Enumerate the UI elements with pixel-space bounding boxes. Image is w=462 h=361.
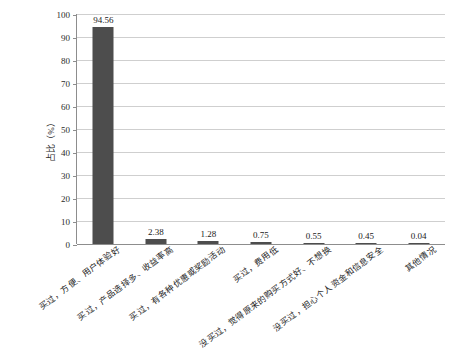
y-axis-tick-label: 20 <box>61 195 70 204</box>
bar-value-label: 94.56 <box>93 15 113 25</box>
x-axis-category-label: 没买过，担心个人资金和信息安全 <box>379 244 386 253</box>
bars-layer: 94.562.381.280.750.550.450.04 <box>77 14 445 244</box>
x-axis-category-label: 其他情况 <box>432 244 439 253</box>
y-axis-tick-label: 80 <box>61 57 70 66</box>
bar-value-label: 0.55 <box>306 231 322 241</box>
x-axis-category-label: 买过，方便、用户体验好 <box>116 244 123 253</box>
y-axis-tick-label: 60 <box>61 103 70 112</box>
bar-slot: 0.45 <box>340 14 393 244</box>
y-axis-tick-label: 70 <box>61 80 70 89</box>
x-axis-category-label-text: 买过，费用低 <box>231 244 281 285</box>
y-axis-tick-label: 50 <box>61 126 70 135</box>
plot-area: 0102030405060708090100 94.562.381.280.75… <box>76 14 444 244</box>
x-axis-category-label: 没买过，觉得原来的购买方式好、不想换 <box>327 244 334 253</box>
bar-slot: 0.04 <box>392 14 445 244</box>
x-axis-category-label-text: 买过，有各种优惠或奖励活动 <box>128 244 228 323</box>
bar-slot: 1.28 <box>182 14 235 244</box>
x-axis-category-label-text: 买过，产品选择多、收益率高 <box>75 244 175 323</box>
bar[interactable] <box>93 27 114 244</box>
bar-chart: 占比（%） 0102030405060708090100 94.562.381.… <box>0 0 462 361</box>
x-axis-category-label: 买过，有各种优惠或奖励活动 <box>221 244 228 253</box>
y-axis-tick-label: 10 <box>61 218 70 227</box>
x-axis-category-label-text: 其他情况 <box>403 244 438 274</box>
x-axis-category-labels: 买过，方便、用户体验好买过，产品选择多、收益率高买过，有各种优惠或奖励活动买过，… <box>76 244 444 359</box>
bar-value-label: 0.45 <box>358 231 374 241</box>
bar-value-label: 1.28 <box>201 229 217 239</box>
bar-slot: 94.56 <box>77 14 130 244</box>
bar-slot: 0.75 <box>235 14 288 244</box>
bar-value-label: 0.04 <box>411 231 427 241</box>
y-axis-tick-label: 100 <box>57 11 71 20</box>
x-axis-category-label: 买过，费用低 <box>274 244 281 253</box>
bar-slot: 0.55 <box>287 14 340 244</box>
bar-slot: 2.38 <box>130 14 183 244</box>
x-axis-category-label-text: 没买过，担心个人资金和信息安全 <box>271 244 385 334</box>
y-axis-tick-label: 40 <box>61 149 70 158</box>
bar-value-label: 2.38 <box>148 227 164 237</box>
y-axis-tick-label: 90 <box>61 34 70 43</box>
y-axis-tick-label: 30 <box>61 172 70 181</box>
x-axis-category-label: 买过，产品选择多、收益率高 <box>169 244 176 253</box>
bar-value-label: 0.75 <box>253 230 269 240</box>
y-axis-title: 占比（%） <box>44 100 58 180</box>
y-axis-tick-label: 0 <box>66 241 71 250</box>
